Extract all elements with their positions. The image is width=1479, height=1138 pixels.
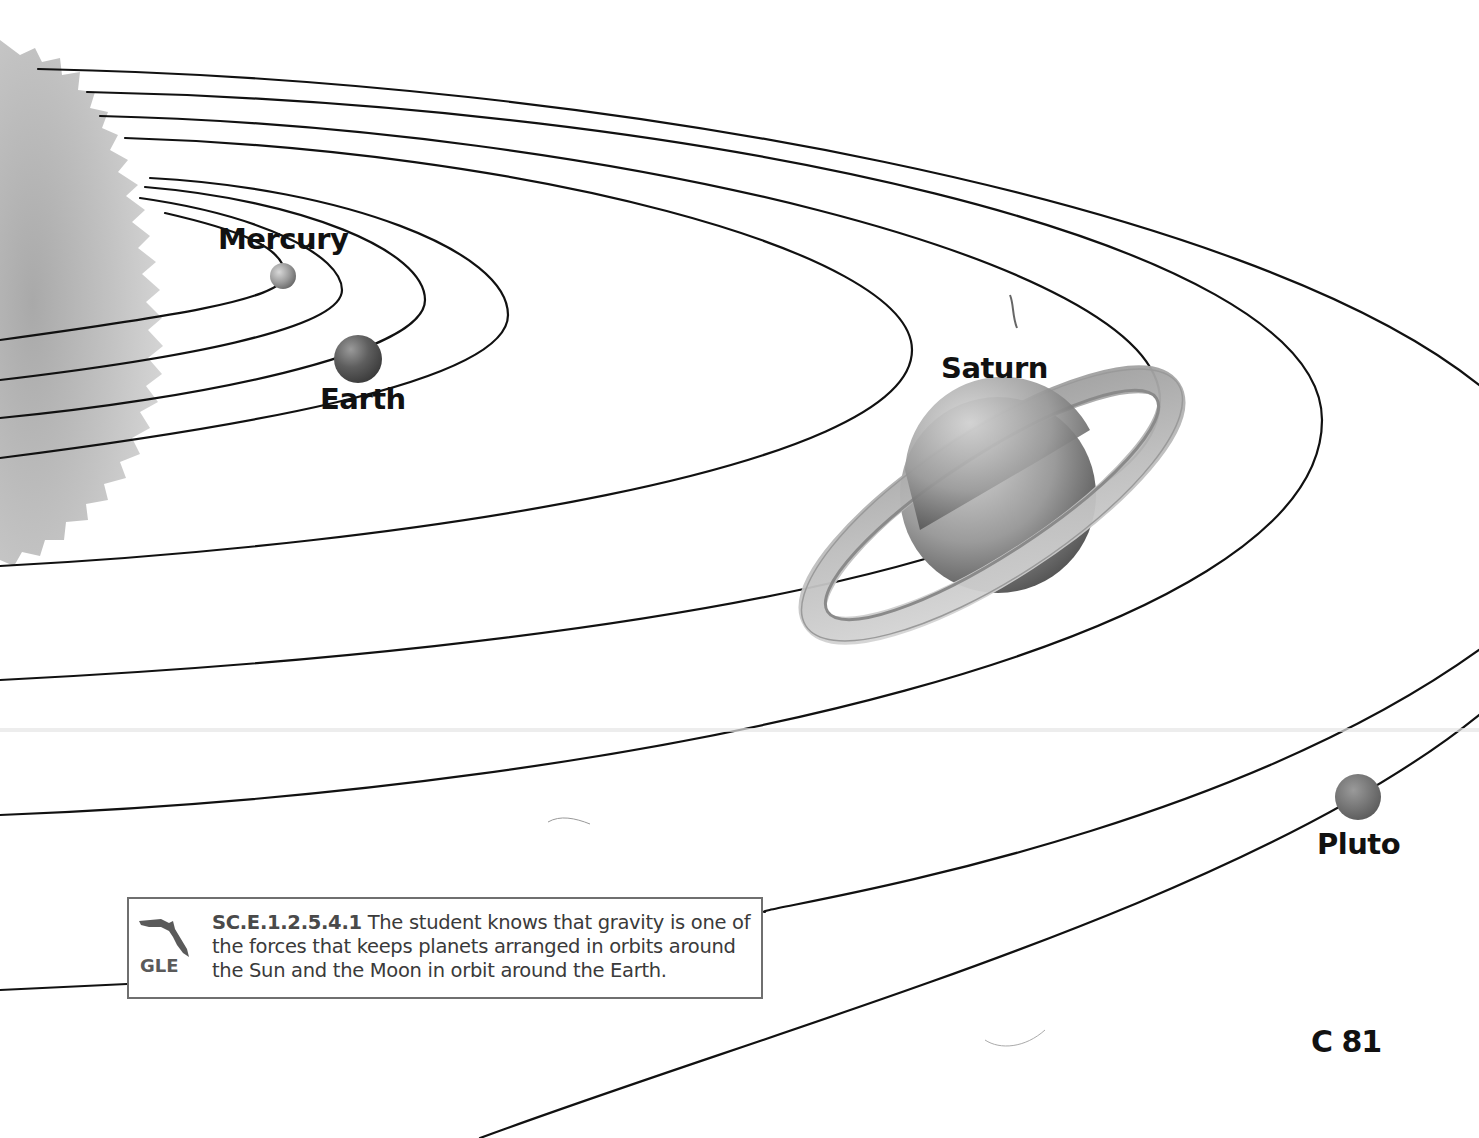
saturn-label: Saturn (941, 354, 1048, 383)
mercury-planet (270, 263, 296, 289)
gle-standard-box: GLE SC.E.1.2.5.4.1 The student knows tha… (127, 897, 763, 999)
standard-code: SC.E.1.2.5.4.1 (212, 911, 362, 934)
page-number: C 81 (1311, 1024, 1381, 1059)
gle-badge: GLE (140, 955, 179, 976)
mercury-label: Mercury (218, 225, 348, 254)
scan-line (0, 728, 1479, 732)
pluto-planet (1335, 774, 1381, 820)
standard-line-3: the Sun and the Moon in orbit around the… (212, 959, 667, 982)
solar-system-diagram: Mercury Earth Saturn Pluto GLE SC.E.1.2.… (0, 0, 1479, 1138)
sun-shape (0, 40, 163, 566)
stray-mark (985, 1030, 1045, 1046)
orbit-uranus (0, 92, 1322, 815)
earth-planet (334, 335, 382, 383)
stray-mark (1010, 295, 1017, 328)
standard-text: SC.E.1.2.5.4.1 The student knows that gr… (212, 911, 757, 983)
florida-state-icon (139, 915, 191, 957)
earth-label: Earth (320, 385, 406, 414)
standard-line-1: The student knows that gravity is one of (362, 911, 751, 934)
pluto-label: Pluto (1317, 830, 1400, 859)
standard-line-2: the forces that keeps planets arranged i… (212, 935, 736, 958)
stray-mark (548, 818, 590, 824)
